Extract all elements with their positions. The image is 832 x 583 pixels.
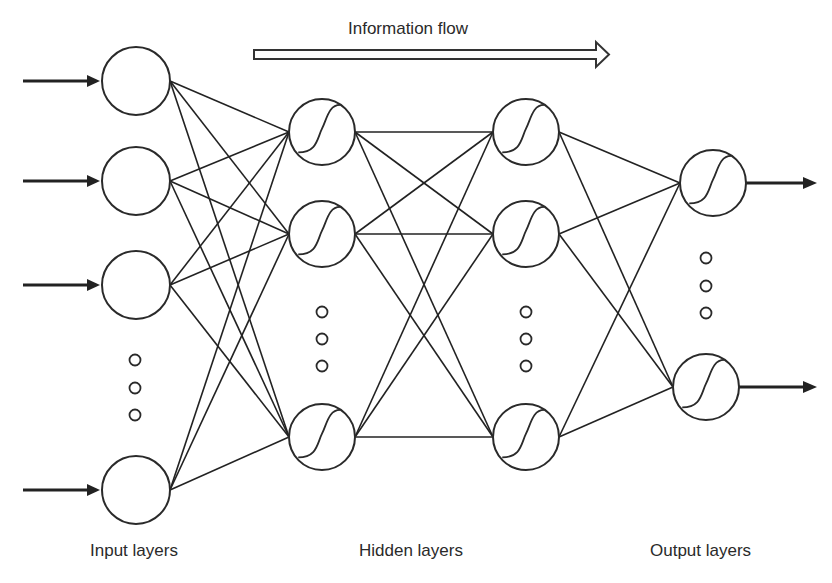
ellipsis-dot [521,361,532,372]
arrowhead-icon [803,381,817,393]
hidden-layers-label: Hidden layers [359,541,463,560]
input-node [102,47,170,115]
input-layers-label: Input layers [90,541,178,560]
hidden2-node [493,99,559,165]
output-node [680,150,746,216]
hidden1-node [289,99,355,165]
ellipsis-dot [701,308,712,319]
ellipsis-dot [701,253,712,264]
hidden2-node [493,404,559,470]
connections [170,81,680,490]
ellipsis-dot [701,281,712,292]
ellipsis-dot [521,334,532,345]
connection-line [559,387,673,437]
arrowhead-icon [87,484,100,496]
arrowhead-icon [87,175,100,187]
ellipsis-dot [317,361,328,372]
ellipsis-dot [317,307,328,318]
hidden2-node [493,201,559,267]
connection-line [170,132,289,490]
connection-line [559,234,673,387]
ellipsis-dot [130,410,141,421]
information-flow-label: Information flow [348,19,469,38]
connection-line [559,132,673,387]
connection-line [559,132,680,183]
connection-line [559,183,680,437]
information-flow-arrow-icon [254,42,609,67]
hidden1-node [289,404,355,470]
connection-line [170,132,289,285]
ellipsis-dot [130,355,141,366]
connection-line [170,234,289,285]
arrowhead-icon [87,75,100,87]
output-layers-label: Output layers [650,541,751,560]
ellipsis-dot [521,307,532,318]
connection-line [170,234,289,490]
arrowhead-icon [87,279,100,291]
hidden1-node [289,201,355,267]
ellipsis-dot [317,334,328,345]
output-node [673,354,739,420]
input-node [102,147,170,215]
connection-line [170,437,289,490]
input-node [102,251,170,319]
connection-line [559,183,680,234]
connection-line [170,81,289,132]
ellipsis-dot [130,383,141,394]
connection-line [170,81,289,234]
neural-network-diagram: Information flow Input layers Hidden lay… [0,0,832,583]
arrowhead-icon [803,177,817,189]
input-node [102,456,170,524]
connection-line [170,132,289,181]
